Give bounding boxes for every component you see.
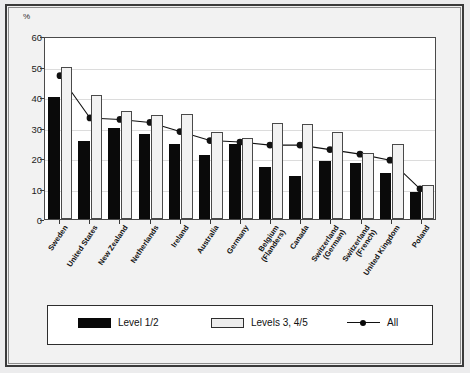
y-axis: 0102030405060	[0, 37, 42, 220]
bar-levels-3-4-5	[61, 67, 73, 220]
bar-levels-3-4-5	[242, 138, 254, 219]
y-axis-tick-label: 40	[4, 93, 42, 104]
y-axis-tick-label: 60	[4, 32, 42, 43]
x-axis-tick-mark	[210, 220, 211, 224]
bar-levels-3-4-5	[121, 111, 133, 219]
y-axis-tick-label: 50	[4, 62, 42, 73]
x-axis-tick-mark	[330, 220, 331, 224]
dark-square-swatch-icon	[78, 318, 111, 328]
light-square-swatch-icon	[211, 318, 244, 328]
x-axis-tick-mark	[150, 220, 151, 224]
bar-levels-3-4-5	[272, 123, 284, 219]
legend-item-all: All	[347, 317, 398, 328]
legend-item-level-1-2: Level 1/2	[78, 317, 159, 328]
bar-levels-3-4-5	[181, 114, 193, 219]
bar-level-1-2	[48, 97, 60, 219]
x-axis-tick-mark	[240, 220, 241, 224]
x-axis-tick-mark	[391, 220, 392, 224]
x-axis-tick-mark	[361, 220, 362, 224]
x-axis-tick-mark	[300, 220, 301, 224]
chart-figure: % 0102030405060 SwedenUnited StatesNew Z…	[0, 0, 470, 373]
x-axis-tick-mark	[59, 220, 60, 224]
bar-levels-3-4-5	[211, 132, 223, 219]
legend-item-levels-3-4-5: Levels 3, 4/5	[211, 317, 308, 328]
chart-legend: Level 1/2 Levels 3, 4/5 All	[47, 305, 433, 345]
y-axis-unit-label: %	[23, 12, 30, 21]
x-axis-tick-mark	[119, 220, 120, 224]
bar-levels-3-4-5	[91, 95, 103, 219]
plot-area	[44, 37, 436, 220]
legend-label: All	[387, 317, 398, 328]
legend-label: Level 1/2	[118, 317, 159, 328]
bar-levels-3-4-5	[332, 132, 344, 219]
legend-label: Levels 3, 4/5	[251, 317, 308, 328]
y-axis-tick-label: 10	[4, 184, 42, 195]
x-axis-tick-mark	[421, 220, 422, 224]
x-axis-tick-mark	[180, 220, 181, 224]
bar-levels-3-4-5	[151, 115, 163, 219]
x-axis-tick-mark	[89, 220, 90, 224]
y-axis-tick-label: 20	[4, 154, 42, 165]
y-axis-tick-label: 30	[4, 123, 42, 134]
x-axis-category-labels: SwedenUnited StatesNew ZealandNetherland…	[44, 220, 436, 305]
x-axis-tick-mark	[270, 220, 271, 224]
y-axis-tick-label: 0	[4, 215, 42, 226]
line-with-dot-marker-icon	[347, 318, 380, 328]
